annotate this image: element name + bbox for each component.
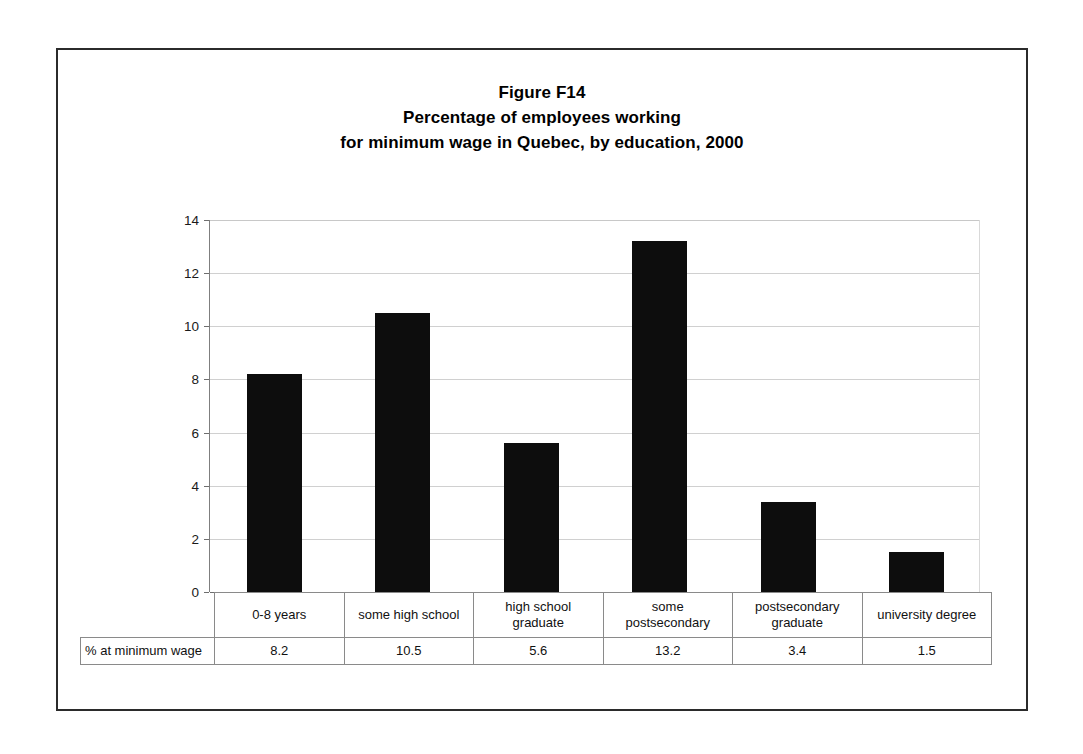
figure-title: Figure F14 Percentage of employees worki… [58,80,1026,155]
table-category-line: postsecondary [733,599,862,615]
plot-area [209,220,980,592]
table-category-line: postsecondary [604,615,733,631]
table-category-cell-0: 0-8 years [215,593,345,638]
table-value-cell-2: 5.6 [474,638,604,665]
title-line-1: Figure F14 [58,80,1026,105]
bar-3 [632,241,687,592]
y-tick-mark-10 [204,326,209,327]
y-tick-mark-4 [204,486,209,487]
table-category-line: 0-8 years [215,607,344,623]
y-tick-mark-8 [204,379,209,380]
title-line-3: for minimum wage in Quebec, by education… [58,130,1026,155]
data-table: 0-8 yearssome high schoolhigh schoolgrad… [80,592,992,665]
y-tick-label-4: 4 [191,478,199,493]
title-line-2: Percentage of employees working [58,105,1026,130]
y-tick-mark-14 [204,220,209,221]
y-tick-mark-12 [204,273,209,274]
table-category-cell-3: somepostsecondary [603,593,733,638]
table-category-cell-2: high schoolgraduate [474,593,604,638]
table-value-cell-0: 8.2 [215,638,345,665]
table-value-cell-1: 10.5 [344,638,474,665]
table-value-cell-5: 1.5 [862,638,992,665]
y-tick-label-2: 2 [191,531,199,546]
table-category-cell-4: postsecondarygraduate [733,593,863,638]
table-category-line: graduate [474,615,603,631]
gridline-4 [210,486,979,487]
y-tick-mark-2 [204,539,209,540]
y-tick-label-12: 12 [184,266,199,281]
gridline-8 [210,379,979,380]
table-category-line: some [604,599,733,615]
gridline-6 [210,433,979,434]
bar-4 [761,502,816,592]
table-category-line: high school [474,599,603,615]
chart-plot: 02468101214 [209,220,980,592]
gridline-2 [210,539,979,540]
table-row-categories: 0-8 yearssome high schoolhigh schoolgrad… [81,593,992,638]
y-tick-label-8: 8 [191,372,199,387]
bar-1 [375,313,430,592]
table-category-line: university degree [863,607,992,623]
bar-0 [247,374,302,592]
table-category-cell-1: some high school [344,593,474,638]
table-value-cell-3: 13.2 [603,638,733,665]
gridline-10 [210,326,979,327]
gridline-12 [210,273,979,274]
gridline-14 [210,220,979,221]
table-value-cell-4: 3.4 [733,638,863,665]
table-row-values: % at minimum wage 8.210.55.613.23.41.5 [81,638,992,665]
table-category-cell-5: university degree [862,593,992,638]
figure-frame: Figure F14 Percentage of employees worki… [56,48,1028,711]
table-corner-blank [81,593,215,638]
bar-5 [889,552,944,592]
y-tick-label-6: 6 [191,425,199,440]
bar-2 [504,443,559,592]
y-tick-mark-6 [204,433,209,434]
y-tick-label-14: 14 [184,213,199,228]
table-row-label: % at minimum wage [81,638,215,665]
table-category-line: some high school [345,607,474,623]
table-category-line: graduate [733,615,862,631]
y-tick-label-10: 10 [184,319,199,334]
